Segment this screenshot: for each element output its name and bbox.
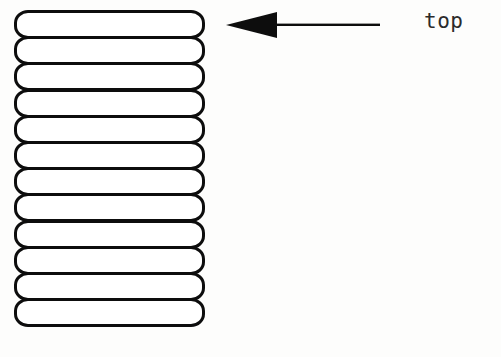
stack-layer (14, 10, 205, 39)
stack-layer (14, 141, 205, 170)
clipped-caption-fragment (46, 345, 206, 357)
stack-layer (14, 272, 205, 301)
layer-stack (14, 10, 205, 327)
top-label: top (424, 9, 463, 33)
stack-layer (14, 89, 205, 118)
stack-layer (14, 193, 205, 222)
stack-layer (14, 62, 205, 91)
left-pointing-arrow (226, 10, 386, 40)
stack-layer (14, 167, 205, 196)
diagram-canvas: top (0, 0, 501, 357)
stack-layer (14, 115, 205, 144)
stack-layer (14, 298, 205, 327)
stack-layer (14, 36, 205, 65)
stack-layer (14, 246, 205, 275)
stack-layer (14, 220, 205, 249)
